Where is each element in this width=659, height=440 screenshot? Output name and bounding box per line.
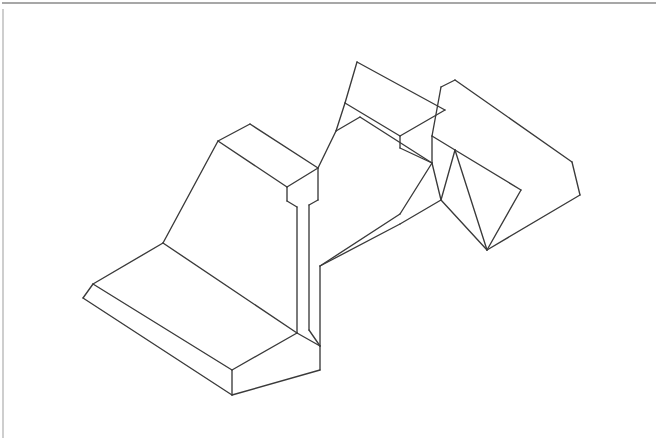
page-frame [2, 3, 656, 438]
isometric-part-drawing [0, 0, 659, 440]
solid-faces-group [83, 62, 580, 395]
drawing-canvas: Isometric Technical Drawing Machined bra… [0, 0, 659, 440]
